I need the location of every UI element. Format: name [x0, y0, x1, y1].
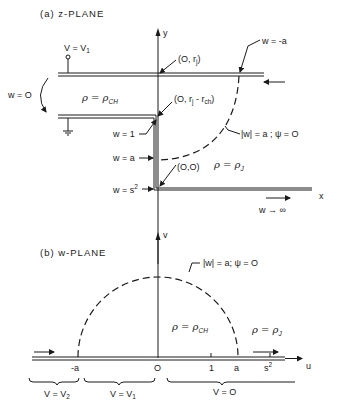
- terminal-icon: [66, 55, 70, 59]
- brace-v1-label: V = V1: [110, 389, 136, 400]
- w-arc-label: |w| = a; ψ = O: [203, 258, 258, 268]
- w-a-label: w = a: [112, 153, 135, 163]
- point-top-pointer: [160, 60, 176, 73]
- point-origin-label: (O,O): [177, 162, 200, 172]
- panel-a-z-plane: (a) z-PLANE y V = V1: [7, 8, 324, 264]
- w-minus-a-label: w = -a: [261, 36, 287, 46]
- y-axis-label: y: [163, 28, 168, 38]
- w-minus-a-pointer: [240, 40, 260, 72]
- rho-j-label-b: ρ = ρJ: [251, 324, 283, 337]
- brace-v1: [84, 378, 155, 385]
- z-arc-pointer: [225, 126, 240, 134]
- panel-a-title: (a) z-PLANE: [40, 8, 104, 19]
- bottom-electrode: [58, 115, 312, 190]
- top-electrode: [58, 73, 264, 76]
- conformal-mapping-diagram: (a) z-PLANE y V = V1: [0, 0, 338, 417]
- u-axis-label: u: [306, 361, 311, 371]
- tick-label-a: a: [234, 363, 239, 373]
- point-top-label: (O, rj): [178, 54, 200, 66]
- w-s2-label: w = s2: [112, 183, 138, 195]
- tick-label-zero: O: [154, 363, 161, 373]
- ground-icon: [63, 118, 73, 135]
- brace-v0-label: V = O: [213, 387, 236, 397]
- brace-v2: [29, 378, 79, 385]
- panel-b-title: (b) w-PLANE: [40, 247, 106, 258]
- x-axis-label: x: [319, 191, 324, 201]
- panel-b-w-plane: (b) w-PLANE v u |w| = a; ψ = O ρ = ρCH ρ…: [29, 230, 311, 400]
- w-infinity-label: w → ∞: [258, 205, 286, 215]
- point-mid-pointer: [158, 102, 172, 116]
- u-axis: [32, 357, 302, 360]
- rho-ch-label-b: ρ = ρCH: [171, 321, 208, 334]
- brace-v2-label: V = V2: [44, 389, 70, 400]
- voltage-top-label: V = V1: [64, 43, 90, 54]
- y-axis-arrow-icon: [156, 28, 161, 36]
- v-axis-arrow-icon: [156, 232, 161, 240]
- v-axis-label: v: [163, 230, 168, 240]
- tick-label-s2: s2: [264, 361, 273, 373]
- point-origin-pointer: [160, 165, 176, 186]
- w-zero-curved-arrow-icon: [40, 78, 48, 112]
- z-arc-label: |w| = a ; ψ = O: [241, 129, 299, 139]
- w-one-label: w = 1: [112, 129, 135, 139]
- rho-ch-label: ρ = ρCH: [81, 92, 118, 105]
- z-arc-boundary: [158, 76, 239, 160]
- tick-label-one: 1: [209, 363, 214, 373]
- w-arc-pointer: [189, 263, 200, 272]
- brace-v0: [167, 378, 295, 385]
- w-zero-left-label: w = O: [7, 90, 32, 100]
- rho-j-label-a: ρ = ρJ: [213, 159, 245, 172]
- tick-label-neg-a: -a: [71, 363, 79, 373]
- point-mid-label: (O, rj - rch): [174, 94, 214, 106]
